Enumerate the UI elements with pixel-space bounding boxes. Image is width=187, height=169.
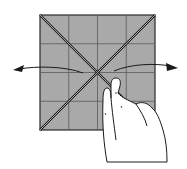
origami-diagram xyxy=(0,0,187,169)
